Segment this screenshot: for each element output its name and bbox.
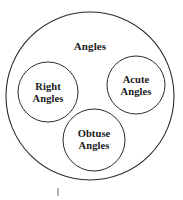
- subset-label-obtuse-angles: Obtuse Angles: [63, 128, 125, 152]
- subset-label-right-angles: Right Angles: [18, 81, 78, 105]
- euler-diagram-canvas: Angles Right Angles Acute Angles Obtuse …: [0, 0, 183, 200]
- universe-label-angles: Angles: [48, 40, 132, 52]
- subset-label-acute-angles: Acute Angles: [107, 74, 165, 98]
